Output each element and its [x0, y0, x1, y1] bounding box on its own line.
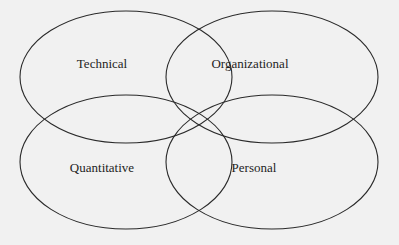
organizational-label: Organizational	[211, 56, 288, 71]
technical-ellipse	[20, 11, 232, 143]
organizational-ellipse	[166, 11, 378, 143]
venn-diagram: Technical Organizational Quantitative Pe…	[0, 0, 399, 245]
quantitative-label: Quantitative	[70, 160, 134, 175]
technical-label: Technical	[77, 56, 128, 71]
personal-label: Personal	[232, 160, 277, 175]
